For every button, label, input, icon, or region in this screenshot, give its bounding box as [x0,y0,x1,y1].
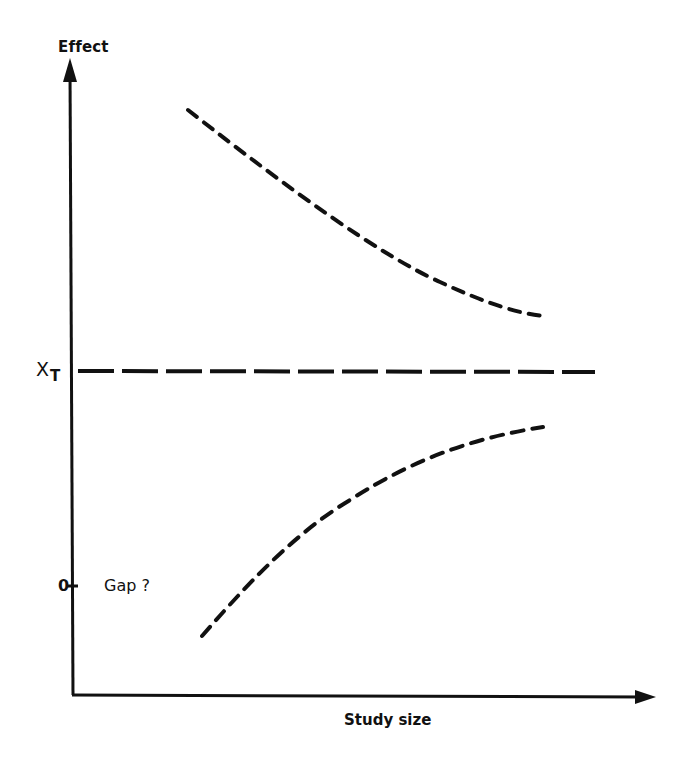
gap-annotation: Gap ? [104,576,150,595]
upper-bound-curve [188,110,545,316]
y-axis-arrow-icon [63,58,77,82]
x-axis-title: Study size [344,711,431,729]
x-axis-arrow-icon [635,690,656,704]
x-axis [72,690,656,704]
true-effect-line [78,371,595,372]
y-axis [63,58,77,695]
lower-bound-curve [202,427,543,636]
y-axis-title: Effect [58,38,109,56]
funnel-diagram: Effect Study size XT 0 Gap ? [0,0,688,761]
diagram-svg [0,0,688,761]
zero-label: 0 [58,576,69,595]
xt-subscript: T [50,367,60,385]
xt-main: X [36,358,49,380]
true-effect-label: XT [36,358,60,385]
